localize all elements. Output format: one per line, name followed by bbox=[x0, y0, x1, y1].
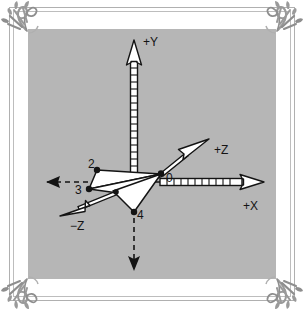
vertex-mid-dot bbox=[113, 189, 119, 195]
vertex-label-0: 0 bbox=[166, 172, 173, 184]
vertex-label-3: 3 bbox=[75, 184, 82, 196]
vertex-label-2: 2 bbox=[88, 158, 95, 170]
axis-label-positive-z: +Z bbox=[214, 144, 228, 156]
figure-page: +Y +X +Z −Z 0 2 3 4 bbox=[0, 0, 304, 310]
vertex-3-dot bbox=[86, 186, 92, 192]
vertex-0-dot bbox=[158, 170, 164, 176]
axis-label-positive-y: +Y bbox=[143, 36, 158, 48]
axis-label-negative-z: −Z bbox=[70, 220, 84, 232]
vertex-label-4: 4 bbox=[137, 209, 144, 221]
axis-label-positive-x: +X bbox=[243, 200, 258, 212]
